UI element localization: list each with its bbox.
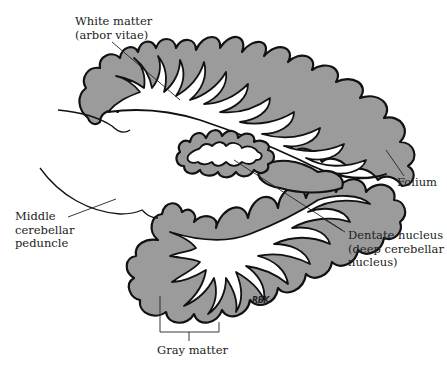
label-middle-cerebellar-peduncle: Middle cerebellar peduncle [15, 210, 74, 251]
artist-signature: RBK [252, 296, 269, 305]
label-folium: Folium [397, 176, 437, 190]
leader-peduncle [68, 199, 116, 217]
label-gray-matter: Gray matter [157, 344, 228, 358]
label-dentate-nucleus: Dentate nucleus (deep cerebellar nucleus… [348, 229, 444, 270]
label-white-matter: White matter (arbor vitae) [75, 15, 152, 42]
cerebellum-illustration: .gm { fill: #9b9b9b; stroke: #111; strok… [0, 0, 447, 367]
